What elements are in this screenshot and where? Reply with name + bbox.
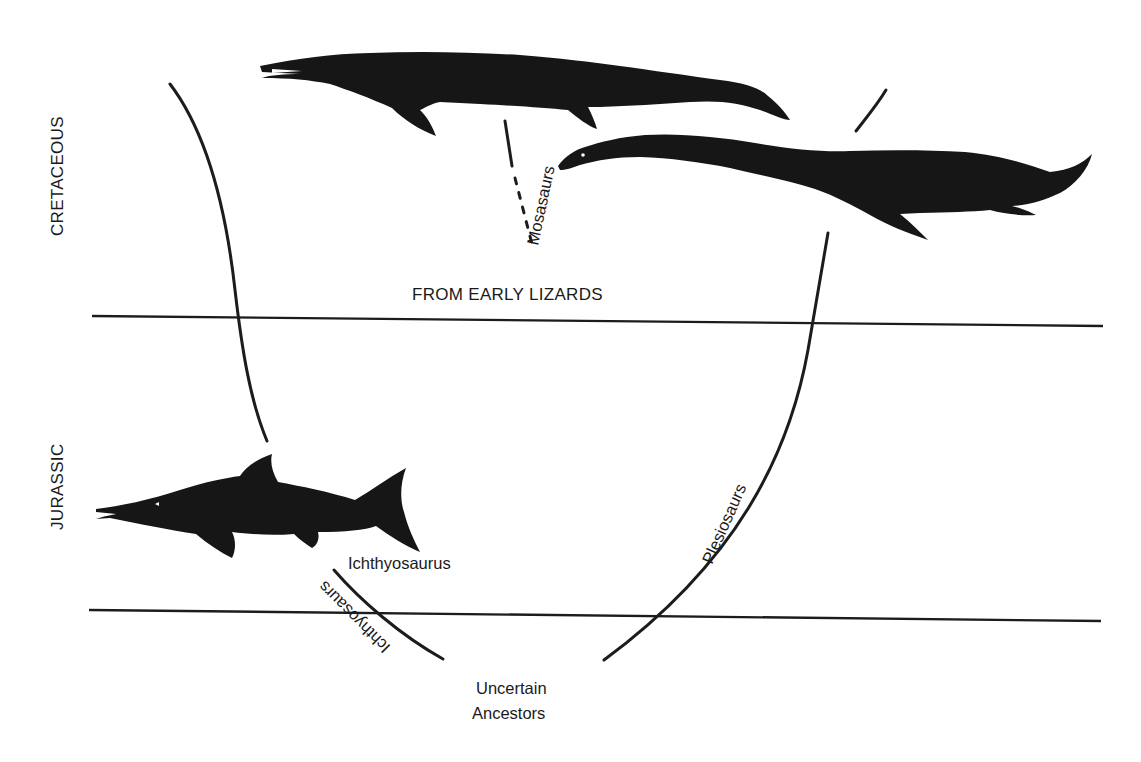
ichthyosaur-lineage-upper-curve	[170, 84, 267, 441]
animal-label-ichthyosaurus: Ichthyosaurus	[348, 554, 451, 572]
period-label-jurassic: JURASSIC	[48, 444, 67, 530]
root-label-line2: Ancestors	[472, 704, 545, 722]
period-label-cretaceous: CRETACEOUS	[48, 116, 67, 236]
marine-reptile-phylogeny-diagram: CRETACEOUS JURASSIC FROM EARLY LIZARDS M…	[0, 0, 1141, 762]
boundary-caption: FROM EARLY LIZARDS	[412, 285, 603, 304]
ichthyosaurus-silhouette	[96, 454, 420, 558]
cretaceous-jurassic-boundary-line	[92, 316, 1103, 326]
lineage-label-plesiosaurs: Plesiosaurs	[698, 481, 749, 566]
plesiosaur-lineage-main-curve	[604, 233, 828, 660]
root-label-line1: Uncertain	[476, 679, 547, 697]
plesiosaur-silhouette	[558, 134, 1092, 240]
root-label-uncertain-ancestors: Uncertain Ancestors	[472, 679, 551, 722]
plesiosaur-lineage-top-curve	[856, 90, 886, 131]
mosasaur-silhouette	[260, 52, 790, 136]
mosasaur-lineage-solid-line	[505, 121, 512, 166]
jurassic-base-boundary-line	[89, 610, 1101, 621]
lineage-label-mosasaurs: Mosasaurs	[523, 164, 557, 247]
